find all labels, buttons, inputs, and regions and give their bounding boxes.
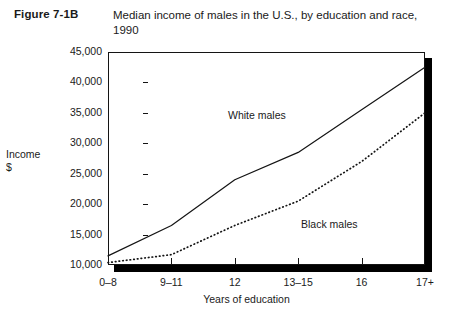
data-lines [0, 0, 453, 322]
series-path-black-males [108, 113, 425, 263]
series-path-white-males [108, 67, 425, 256]
chart-area: Income $ 10,00015,00020,00025,00030,0003… [0, 0, 453, 322]
